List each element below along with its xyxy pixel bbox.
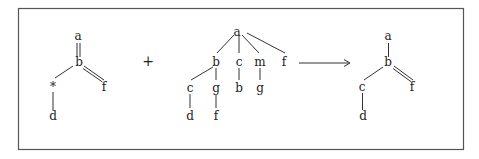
node-star: * — [50, 80, 56, 94]
node-g-child: g — [256, 81, 264, 95]
node-a: a — [74, 29, 81, 43]
node-b: b — [212, 55, 220, 69]
node-c: c — [236, 55, 243, 69]
node-a: a — [384, 29, 391, 43]
node-c-child: c — [187, 81, 194, 95]
tree-substitution-diagram: a b f * d + a b c m f c g b — [0, 0, 479, 159]
node-a: a — [233, 25, 240, 39]
node-b: b — [75, 55, 83, 69]
node-b: b — [384, 55, 392, 69]
node-d: d — [49, 109, 57, 123]
node-d: d — [359, 109, 367, 123]
diagram-frame — [19, 9, 464, 150]
node-g: g — [212, 81, 220, 95]
node-c: c — [359, 80, 366, 94]
node-d: d — [186, 109, 194, 123]
plus-operator: + — [142, 53, 154, 69]
node-b-child: b — [235, 81, 243, 95]
node-m: m — [254, 55, 266, 69]
